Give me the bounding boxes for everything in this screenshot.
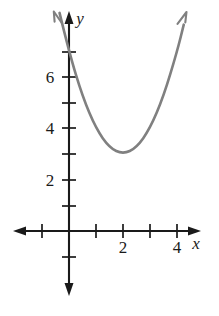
tick-labels: 2 4 2 4 6 bbox=[46, 68, 182, 257]
y-axis-name: y bbox=[74, 9, 84, 28]
parabola-path bbox=[60, 13, 184, 153]
y-axis-top-arrowhead bbox=[65, 11, 74, 24]
y-label-2: 2 bbox=[46, 171, 55, 190]
axis-name-labels: x y bbox=[74, 9, 200, 253]
parabola-curve-group bbox=[54, 12, 187, 153]
parabola-right-arrowhead bbox=[178, 12, 187, 24]
x-label-4: 4 bbox=[173, 238, 182, 257]
x-axis-name: x bbox=[191, 234, 200, 253]
y-axis-bottom-arrowhead bbox=[65, 283, 74, 296]
graph-figure: 2 4 2 4 6 x y bbox=[0, 0, 219, 316]
y-label-6: 6 bbox=[46, 68, 55, 87]
x-axis-left-arrowhead bbox=[13, 227, 26, 236]
y-label-4: 4 bbox=[46, 119, 55, 138]
x-axis bbox=[13, 224, 201, 238]
x-label-2: 2 bbox=[119, 238, 128, 257]
coordinate-plane-svg: 2 4 2 4 6 x y bbox=[0, 0, 219, 316]
